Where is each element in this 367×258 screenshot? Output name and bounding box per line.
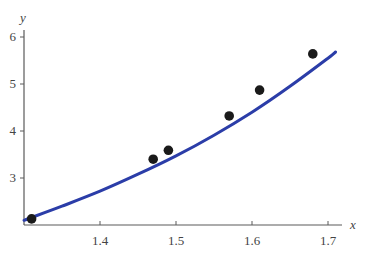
x-tick-label: 1.4 xyxy=(92,233,109,248)
data-point xyxy=(308,49,318,59)
data-point xyxy=(148,154,158,164)
y-tick-label: 4 xyxy=(10,123,17,138)
axes xyxy=(24,30,342,225)
x-axis-label: x xyxy=(349,217,356,232)
data-point xyxy=(27,214,37,224)
x-tick-label: 1.7 xyxy=(320,233,337,248)
x-tick-label: 1.6 xyxy=(244,233,261,248)
data-point xyxy=(164,145,174,155)
y-tick-label: 3 xyxy=(10,170,17,185)
y-tick-label: 5 xyxy=(10,76,17,91)
data-point xyxy=(255,85,265,95)
chart: 1.41.51.61.7 3456 x y xyxy=(0,0,367,258)
x-tick-label: 1.5 xyxy=(168,233,184,248)
data-points xyxy=(27,49,318,224)
fitted-curve xyxy=(24,52,336,220)
y-tick-label: 6 xyxy=(10,29,17,44)
y-ticks: 3456 xyxy=(10,29,25,185)
y-axis-label: y xyxy=(18,10,26,25)
data-point xyxy=(224,111,234,121)
